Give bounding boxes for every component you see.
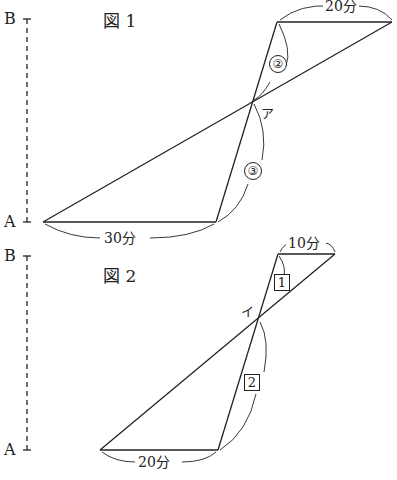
fig1-ratio-lower: ③ — [244, 162, 262, 180]
fig1-title: 図 1 — [103, 13, 136, 30]
fig1-shape — [43, 22, 392, 222]
fig2-label-b: B — [4, 248, 16, 264]
fig2-crossing-label: イ — [241, 305, 254, 318]
fig1-label-a: A — [4, 214, 16, 230]
fig2-title: 図 2 — [103, 268, 136, 285]
fig1-bottom-duration: 30分 — [102, 231, 138, 245]
fig2-top-duration: 10分 — [286, 236, 322, 250]
fig1-top-duration: 20分 — [323, 0, 359, 13]
fig1-label-b: B — [4, 11, 16, 27]
fig2-ratio-upper: 1 — [274, 274, 290, 291]
diagram-canvas — [0, 0, 397, 480]
fig2-bottom-duration: 20分 — [136, 455, 172, 469]
fig1-crossing-label: ア — [261, 107, 274, 120]
fig2-label-a: A — [4, 442, 16, 458]
fig2-ratio-lower: 2 — [244, 374, 260, 391]
fig1-ratio-upper: ② — [269, 55, 287, 73]
fig2-braces — [102, 243, 335, 462]
